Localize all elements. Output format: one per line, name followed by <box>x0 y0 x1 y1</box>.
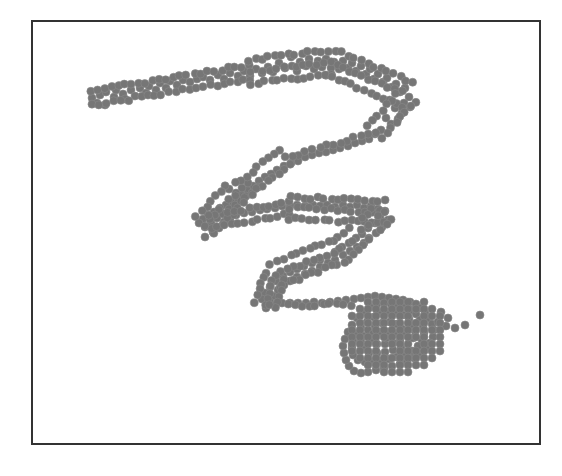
data-point <box>341 217 349 225</box>
data-point <box>277 199 285 207</box>
data-point <box>246 81 254 89</box>
data-point <box>102 99 110 107</box>
data-point <box>373 198 381 206</box>
data-point <box>182 71 190 79</box>
data-point <box>428 312 436 320</box>
data-point <box>428 326 436 334</box>
data-point <box>389 69 397 77</box>
data-point <box>381 196 389 204</box>
data-point <box>337 48 345 56</box>
data-point <box>364 319 372 327</box>
data-point <box>253 215 261 223</box>
data-point <box>310 256 318 264</box>
data-point <box>404 368 412 376</box>
data-point <box>244 57 252 65</box>
data-point <box>396 368 404 376</box>
data-point <box>399 87 407 95</box>
data-point <box>420 361 428 369</box>
data-point <box>357 132 365 140</box>
data-point <box>199 83 207 91</box>
data-point <box>94 86 102 94</box>
data-point <box>240 219 248 227</box>
data-point <box>290 51 298 59</box>
data-point <box>339 300 347 308</box>
data-point <box>312 205 320 213</box>
data-point <box>162 76 170 84</box>
data-point <box>374 212 382 220</box>
data-point <box>280 63 288 71</box>
data-point <box>305 60 313 68</box>
data-point <box>340 194 348 202</box>
data-point <box>320 59 328 67</box>
data-point <box>266 282 274 290</box>
data-point <box>298 302 306 310</box>
data-point <box>265 202 273 210</box>
data-point <box>325 216 333 224</box>
data-point <box>393 118 401 126</box>
data-point <box>383 83 391 91</box>
data-point <box>239 76 247 84</box>
data-point <box>306 73 314 81</box>
data-point <box>347 208 355 216</box>
data-point <box>348 312 356 320</box>
data-point <box>356 354 364 362</box>
data-point <box>412 333 420 341</box>
data-point <box>380 333 388 341</box>
data-point <box>461 321 469 329</box>
data-point <box>246 68 254 76</box>
data-point <box>192 84 200 92</box>
data-point <box>361 197 369 205</box>
data-point <box>276 170 284 178</box>
data-point <box>254 291 262 299</box>
data-point <box>127 80 135 88</box>
data-point <box>303 47 311 55</box>
data-point <box>357 294 365 302</box>
data-point <box>280 74 288 82</box>
data-point <box>205 211 213 219</box>
data-point <box>380 368 388 376</box>
data-point <box>265 260 273 268</box>
data-point <box>325 237 333 245</box>
data-point <box>330 249 338 257</box>
data-point <box>225 195 233 203</box>
data-point <box>294 193 302 201</box>
data-point <box>451 324 459 332</box>
data-point <box>289 276 297 284</box>
data-point <box>363 122 371 130</box>
data-point <box>226 78 234 86</box>
data-point <box>265 301 273 309</box>
data-point <box>125 97 133 105</box>
data-point <box>250 299 258 307</box>
data-point <box>388 340 396 348</box>
data-point <box>260 77 268 85</box>
data-point <box>285 205 293 213</box>
data-point <box>259 67 267 75</box>
data-point <box>358 56 366 64</box>
data-point <box>314 71 322 79</box>
data-point <box>317 144 325 152</box>
data-point <box>237 64 245 72</box>
data-point <box>358 214 366 222</box>
data-point <box>178 85 186 93</box>
data-point <box>305 203 313 211</box>
data-point <box>369 63 377 71</box>
data-point <box>428 354 436 362</box>
data-point <box>476 311 484 319</box>
data-point <box>165 88 173 96</box>
data-point <box>348 347 356 355</box>
data-point <box>272 65 280 73</box>
data-point <box>401 77 409 85</box>
data-point <box>383 220 391 228</box>
data-point <box>341 258 349 266</box>
data-point <box>289 152 297 160</box>
data-point <box>201 233 209 241</box>
data-point <box>319 195 327 203</box>
data-point <box>323 252 331 260</box>
data-point <box>379 107 387 115</box>
data-point <box>340 349 348 357</box>
data-point <box>157 91 165 99</box>
data-point <box>364 361 372 369</box>
data-point <box>337 139 345 147</box>
data-point <box>372 361 380 369</box>
data-point <box>347 302 355 310</box>
